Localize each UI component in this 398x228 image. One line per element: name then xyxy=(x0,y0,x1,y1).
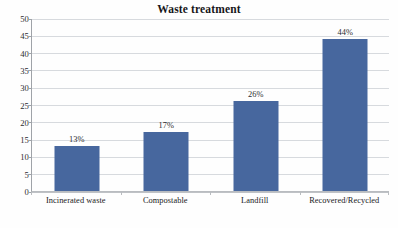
y-axis-tick-label: 5 xyxy=(3,170,29,180)
bar[interactable] xyxy=(54,146,99,191)
y-axis-tick-label: 50 xyxy=(3,14,29,24)
y-axis-tick-label: 0 xyxy=(3,187,29,197)
x-axis-tick-labels: Incinerated wasteCompostableLandfillReco… xyxy=(31,196,389,212)
x-axis-tick-label: Compostable xyxy=(143,196,188,205)
y-axis-tick-label: 40 xyxy=(3,49,29,59)
bar-slot: 13% xyxy=(32,19,122,191)
bar-value-label: 17% xyxy=(158,121,174,130)
x-axis-tick-mark xyxy=(300,192,301,195)
plot-frame: 13%17%26%44% xyxy=(31,19,389,192)
waste-treatment-bar-chart: Waste treatment 05101520253035404550 13%… xyxy=(0,0,398,228)
x-axis-tick-mark xyxy=(388,192,389,195)
y-axis-tick-label: 20 xyxy=(3,118,29,128)
x-axis-tick-mark xyxy=(31,192,32,195)
bar-value-label: 44% xyxy=(337,28,353,37)
bar-slot: 26% xyxy=(211,19,301,191)
bar-value-label: 26% xyxy=(248,90,264,99)
y-axis-tick-label: 30 xyxy=(3,83,29,93)
plot-area: 13%17%26%44% xyxy=(32,19,389,191)
x-axis-tick-label: Recovered/Recycled xyxy=(309,196,379,205)
bar-slot: 44% xyxy=(301,19,391,191)
y-axis-tick-label: 25 xyxy=(3,101,29,111)
y-axis-tick-label: 10 xyxy=(3,152,29,162)
x-axis-tick-label: Incinerated waste xyxy=(46,196,106,205)
x-axis-tick-label: Landfill xyxy=(241,196,268,205)
y-axis-tick-label: 15 xyxy=(3,135,29,145)
y-axis-tick-label: 35 xyxy=(3,66,29,76)
bar-value-label: 13% xyxy=(69,135,85,144)
bar-slot: 17% xyxy=(122,19,212,191)
y-axis-tick-labels: 05101520253035404550 xyxy=(0,19,29,192)
bar[interactable] xyxy=(323,39,368,191)
bar[interactable] xyxy=(144,132,189,191)
bar[interactable] xyxy=(233,101,278,191)
x-axis-tick-mark xyxy=(121,192,122,195)
x-axis-tick-mark xyxy=(210,192,211,195)
y-axis-tick-label: 45 xyxy=(3,31,29,41)
chart-title: Waste treatment xyxy=(0,3,398,15)
